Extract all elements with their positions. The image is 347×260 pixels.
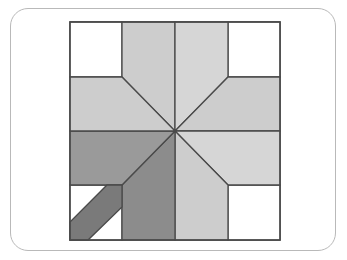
quilt-figure: Eight-pointed LeMoyne star quilt block w… [0,0,347,260]
quilt-block-svg: Eight-pointed LeMoyne star quilt block w… [0,0,347,260]
corner-square-top-left [70,22,122,77]
corner-square-bottom-right [228,185,280,240]
screenshot-root: Eight-pointed LeMoyne star quilt block w… [0,0,347,260]
corner-square-top-right [228,22,280,77]
